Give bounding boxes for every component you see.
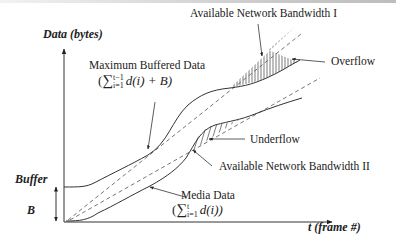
pointer-max-buffered	[148, 102, 155, 149]
overflow-region	[230, 25, 300, 95]
bandwidth-2-label: Available Network Bandwidth II	[219, 161, 370, 173]
bandwidth-1-label: Available Network Bandwidth I	[190, 8, 337, 20]
buffer-label: Buffer	[15, 173, 47, 185]
media-data-formula: (∑ti=1d(i))	[172, 202, 223, 219]
buffer-b-label: B	[27, 204, 35, 216]
pointer-bandwidth-2	[193, 150, 212, 166]
pointer-bandwidth-1	[258, 24, 262, 56]
max-buffered-label: Maximum Buffered Data	[89, 60, 205, 72]
underflow-region	[186, 120, 243, 160]
y-axis-label: Data (bytes)	[43, 28, 103, 40]
pointer-media-data	[150, 187, 185, 197]
underflow-label: Underflow	[250, 134, 300, 146]
overflow-label: Overflow	[331, 56, 375, 68]
x-axis-label: t (frame #)	[308, 221, 361, 233]
media-data-label: Media Data	[181, 190, 235, 202]
max-buffered-formula: (∑t−1i=1d(i) + B)	[98, 73, 172, 90]
